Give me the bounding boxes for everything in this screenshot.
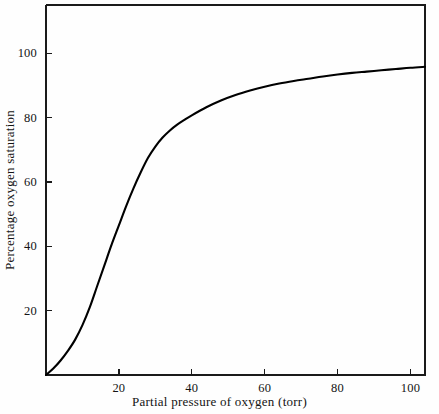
y-tick-label-80: 80 [24, 110, 37, 125]
y-tick-label-20: 20 [24, 303, 37, 318]
x-axis-title: Partial pressure of oxygen (torr) [0, 394, 439, 410]
plot-frame [46, 5, 425, 375]
dissociation-curve [46, 67, 425, 375]
chart-figure: 20 40 60 80 100 20 40 60 80 100 Partial … [0, 0, 439, 414]
y-tick-label-60: 60 [24, 174, 37, 189]
y-tick-label-100: 100 [18, 46, 37, 61]
plot-canvas [0, 0, 439, 414]
x-axis-ticks [119, 369, 411, 375]
y-axis-ticks [46, 53, 52, 310]
y-tick-label-40: 40 [24, 239, 37, 254]
y-axis-title: Percentage oxygen saturation [2, 110, 18, 270]
